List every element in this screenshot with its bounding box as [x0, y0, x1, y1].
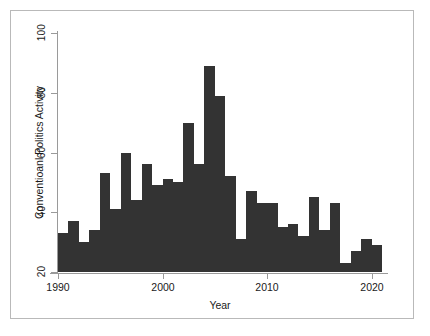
x-axis-label: Year	[58, 299, 382, 311]
x-tick-label: 2020	[349, 281, 395, 293]
x-axis-line	[50, 273, 388, 274]
bar	[267, 203, 277, 272]
bar	[225, 176, 235, 272]
bar	[183, 123, 193, 272]
bar	[142, 164, 152, 272]
bar	[163, 179, 173, 272]
bar	[361, 239, 371, 272]
x-tick-mark	[58, 274, 59, 279]
bar	[110, 209, 120, 272]
figure: 20406080100 1990200020102020 Conventioan…	[0, 0, 430, 336]
y-tick-mark	[51, 93, 57, 94]
y-tick-mark	[51, 33, 57, 34]
bar	[257, 203, 267, 272]
bar	[340, 263, 350, 272]
bar	[278, 227, 288, 272]
bar	[121, 153, 131, 273]
bar	[79, 242, 89, 272]
bar	[89, 230, 99, 272]
bar	[100, 173, 110, 272]
bar	[309, 197, 319, 272]
bar	[288, 224, 298, 272]
x-tick-label: 2000	[140, 281, 186, 293]
bar	[298, 236, 308, 272]
y-tick-mark	[51, 153, 57, 154]
bar	[319, 230, 329, 272]
bar	[215, 96, 225, 272]
bar	[236, 239, 246, 272]
bar	[58, 233, 68, 272]
y-axis-label: Conventioanl Politics Activity	[33, 33, 45, 272]
plot-area	[58, 33, 382, 272]
x-tick-label: 2010	[244, 281, 290, 293]
x-tick-mark	[163, 274, 164, 279]
bar	[194, 164, 204, 272]
bar	[68, 221, 78, 272]
bar	[131, 200, 141, 272]
x-tick-mark	[372, 274, 373, 279]
x-tick-label: 1990	[35, 281, 81, 293]
bar	[372, 245, 382, 272]
bar	[351, 251, 361, 272]
bar	[246, 191, 256, 272]
y-tick-mark	[51, 212, 57, 213]
bar	[204, 66, 214, 272]
bar	[330, 203, 340, 272]
y-tick-mark	[51, 272, 57, 273]
bar-series	[58, 33, 382, 272]
bar	[152, 185, 162, 272]
bar	[173, 182, 183, 272]
x-tick-mark	[267, 274, 268, 279]
